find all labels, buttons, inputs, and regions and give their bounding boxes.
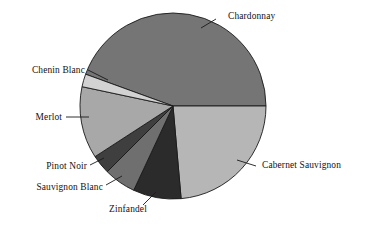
pie-slices-group — [80, 13, 266, 199]
slice-label-merlot: Merlot — [36, 112, 63, 122]
slice-label-chenin-blanc: Chenin Blanc — [32, 65, 85, 75]
slice-label-chardonnay: Chardonnay — [228, 11, 275, 21]
pie-slice-cabernet-sauvignon — [173, 106, 266, 199]
slice-label-sauvignon-blanc: Sauvignon Blanc — [36, 182, 103, 192]
slice-label-pinot-noir: Pinot Noir — [46, 161, 88, 171]
slice-label-zinfandel: Zinfandel — [109, 204, 147, 214]
pie-chart-canvas: ChardonnayCabernet SauvignonZinfandelSau… — [0, 0, 371, 226]
slice-label-cabernet-sauvignon: Cabernet Sauvignon — [262, 160, 341, 170]
pie-chart-figure: ChardonnayCabernet SauvignonZinfandelSau… — [0, 0, 371, 226]
